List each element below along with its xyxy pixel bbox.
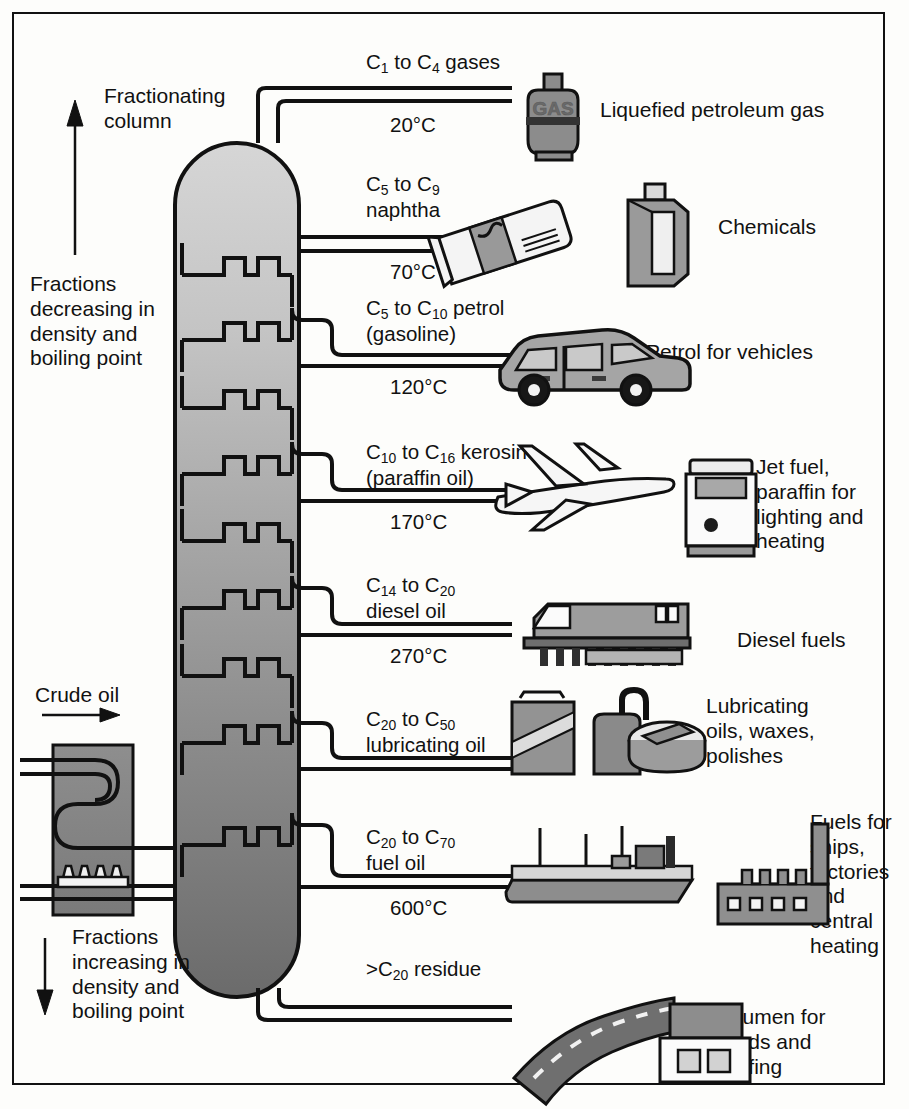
car-icon — [500, 330, 690, 405]
oil-cans-icon — [512, 690, 705, 774]
diagram-page: Fractionating column Fractions decreasin… — [0, 0, 909, 1109]
gas-cylinder-icon: GAS — [526, 74, 580, 160]
building-icon — [660, 1004, 750, 1082]
factory-icon — [718, 824, 828, 924]
train-icon — [524, 604, 690, 666]
aeroplane-icon — [496, 444, 674, 530]
paraffin-heater-icon — [686, 460, 756, 556]
chemicals-icon — [428, 184, 688, 286]
product-icons: GAS — [0, 0, 909, 1109]
road-icon — [514, 998, 674, 1104]
ship-icon — [506, 826, 692, 902]
svg-text:GAS: GAS — [532, 98, 573, 119]
